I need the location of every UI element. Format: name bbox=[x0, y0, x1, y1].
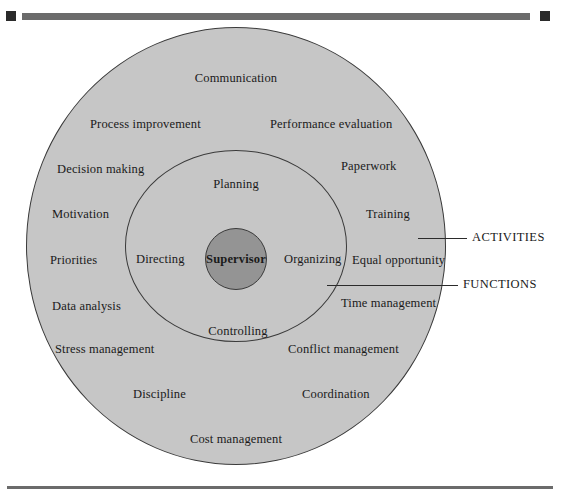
activity-label-coordination: Coordination bbox=[302, 388, 370, 401]
activity-label-conflict-management: Conflict management bbox=[288, 343, 399, 356]
top-rule-right-cap bbox=[540, 11, 550, 21]
activity-label-decision-making: Decision making bbox=[57, 163, 144, 176]
activity-label-discipline: Discipline bbox=[133, 388, 186, 401]
bottom-rule bbox=[7, 486, 553, 489]
activity-label-performance-evaluation: Performance evaluation bbox=[270, 118, 392, 131]
activity-label-cost-management: Cost management bbox=[190, 433, 282, 446]
top-rule-bar bbox=[22, 13, 530, 20]
activities-callout-label: ACTIVITIES bbox=[472, 231, 545, 244]
activities-leader-line bbox=[418, 238, 467, 239]
function-label-planning: Planning bbox=[213, 178, 259, 191]
functions-callout-label: FUNCTIONS bbox=[463, 278, 537, 291]
function-label-directing: Directing bbox=[136, 253, 185, 266]
functions-leader-line bbox=[327, 285, 458, 286]
function-label-organizing: Organizing bbox=[284, 253, 342, 266]
core-label: Supervisor bbox=[206, 253, 266, 266]
activity-label-data-analysis: Data analysis bbox=[52, 300, 121, 313]
activity-label-training: Training bbox=[366, 208, 410, 221]
activity-label-motivation: Motivation bbox=[52, 208, 109, 221]
function-label-controlling: Controlling bbox=[208, 325, 267, 338]
top-rule bbox=[0, 10, 563, 26]
activity-label-equal-opportunity: Equal opportunity bbox=[352, 254, 445, 267]
figure-root: Supervisor Planning Organizing Controlli… bbox=[0, 0, 563, 503]
activity-label-time-management: Time management bbox=[341, 297, 436, 310]
activity-label-stress-management: Stress management bbox=[55, 343, 154, 356]
activity-label-communication: Communication bbox=[195, 72, 278, 85]
top-rule-left-cap bbox=[6, 11, 16, 21]
activity-label-paperwork: Paperwork bbox=[341, 160, 397, 173]
activity-label-priorities: Priorities bbox=[50, 254, 97, 267]
activity-label-process-improvement: Process improvement bbox=[90, 118, 201, 131]
